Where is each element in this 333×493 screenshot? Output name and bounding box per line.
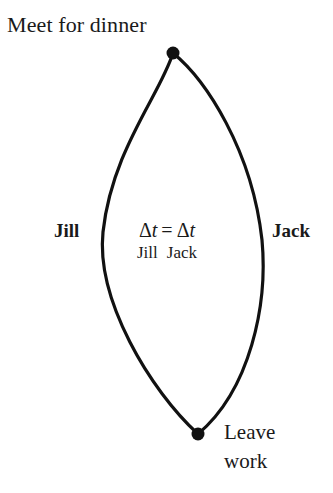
equals-sign: = bbox=[157, 219, 176, 242]
jill-path-label: Jill bbox=[54, 221, 79, 240]
leave-work-event-dot bbox=[192, 428, 205, 441]
subscript-jack: Jack bbox=[167, 243, 197, 263]
meet-for-dinner-event-dot bbox=[167, 47, 180, 60]
equation-main-row: Δt=Δt bbox=[108, 219, 226, 242]
worldline-diagram: Meet for dinner Jill Jack Leave work Δt=… bbox=[0, 0, 333, 493]
leave-work-label: Leave work bbox=[224, 418, 275, 476]
leave-work-label-line2: work bbox=[224, 447, 275, 476]
subscript-jill: Jill bbox=[137, 243, 167, 263]
delta-symbol-left: Δ bbox=[139, 219, 152, 241]
time-variable-right: t bbox=[190, 219, 196, 241]
equation-left-term: Δt bbox=[139, 219, 157, 242]
proper-time-equation: Δt=Δt JillJack bbox=[108, 219, 226, 263]
meet-for-dinner-label: Meet for dinner bbox=[7, 14, 147, 36]
delta-symbol-right: Δ bbox=[177, 219, 190, 241]
equation-right-term: Δt bbox=[177, 219, 195, 242]
jack-path-label: Jack bbox=[272, 221, 310, 240]
leave-work-label-line1: Leave bbox=[224, 418, 275, 447]
equation-subscript-row: JillJack bbox=[108, 243, 226, 263]
